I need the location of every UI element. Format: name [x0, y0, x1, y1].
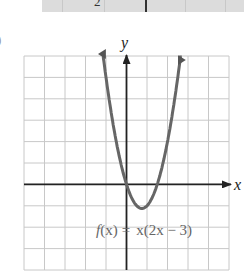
fn-arg: (x) — [100, 222, 118, 239]
function-graph: x y f(x)=x(2x − 3) — [0, 0, 244, 275]
parabola-curve — [102, 57, 182, 209]
x-axis-label: x — [233, 176, 241, 193]
fn-rhs: x(2x − 3) — [136, 222, 192, 239]
function-label: f(x)=x(2x − 3) — [96, 222, 192, 239]
fn-equals: = — [122, 222, 130, 238]
y-axis-label: y — [119, 34, 129, 52]
